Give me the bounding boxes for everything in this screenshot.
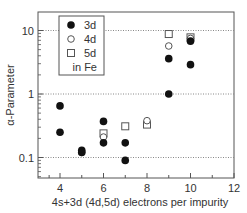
x-tick-label: 12 <box>228 182 240 194</box>
point-3d <box>165 90 173 98</box>
legend-label-4d: 4d <box>84 33 96 45</box>
open-circle-icon <box>68 36 75 43</box>
scatter-chart: 0.1110 4681012 3d 4d 5d in Fe 4s+3d (4d,… <box>0 0 247 213</box>
point-5d <box>165 31 172 38</box>
legend-label-5d: 5d <box>84 47 96 59</box>
point-3d <box>100 118 108 126</box>
x-tick-label: 10 <box>184 182 196 194</box>
point-3d <box>56 128 64 136</box>
filled-circle-icon <box>67 21 75 29</box>
open-square-icon <box>68 50 75 57</box>
point-3d <box>121 157 129 165</box>
y-tick-label: 10 <box>22 25 34 37</box>
point-3d <box>78 149 86 157</box>
x-tick-label: 6 <box>100 182 106 194</box>
point-3d <box>187 37 195 45</box>
legend: 3d 4d 5d in Fe <box>59 16 104 75</box>
legend-note: in Fe <box>73 61 97 73</box>
x-tick-label: 4 <box>57 182 63 194</box>
y-tick-label: 0.1 <box>19 152 34 164</box>
point-3d <box>100 139 108 147</box>
point-3d <box>165 55 173 63</box>
legend-label-3d: 3d <box>84 19 96 31</box>
y-axis-label: α-Parameter <box>4 64 16 126</box>
x-axis-label: 4s+3d (4d,5d) electrons per impurity <box>52 196 229 208</box>
x-tick-label: 8 <box>144 182 150 194</box>
point-3d <box>187 61 195 69</box>
point-5d <box>122 123 129 130</box>
point-4d <box>165 43 172 50</box>
point-4d <box>144 117 151 124</box>
y-tick-label: 1 <box>28 88 34 100</box>
point-3d <box>56 102 64 110</box>
point-3d <box>121 139 129 147</box>
